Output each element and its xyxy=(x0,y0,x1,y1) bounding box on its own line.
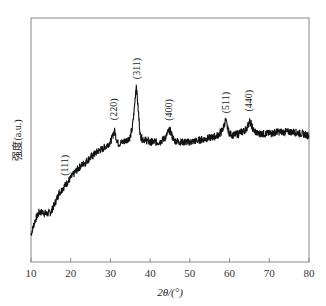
plot-frame xyxy=(31,18,309,262)
peak-label: (220) xyxy=(108,98,120,120)
x-tick-label: 10 xyxy=(26,267,38,279)
xrd-chart: 1020304050607080 (111)(220)(311)(400)(51… xyxy=(0,0,326,306)
peak-label: (511) xyxy=(220,92,232,113)
peak-label: (440) xyxy=(243,90,255,112)
x-axis-ticks: 1020304050607080 xyxy=(26,258,316,279)
peak-label: (311) xyxy=(131,58,143,79)
x-tick-label: 40 xyxy=(145,267,157,279)
peak-label: (111) xyxy=(59,155,71,176)
peak-label: (400) xyxy=(163,99,175,121)
x-tick-label: 60 xyxy=(224,267,236,279)
x-tick-label: 30 xyxy=(105,267,117,279)
x-tick-label: 50 xyxy=(184,267,196,279)
x-tick-label: 70 xyxy=(264,267,276,279)
x-axis-title: 2θ/(°) xyxy=(157,286,183,299)
x-tick-label: 80 xyxy=(304,267,316,279)
x-tick-label: 20 xyxy=(65,267,77,279)
y-axis-title: 强度(a.u.) xyxy=(11,119,24,160)
